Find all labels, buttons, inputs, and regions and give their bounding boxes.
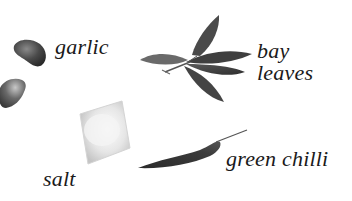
garlic-clove-icon-2 xyxy=(0,79,26,108)
salt-label: salt xyxy=(43,168,76,190)
ingredients-figure: garlic bay leaves salt green chilli xyxy=(0,0,352,201)
salt-cube-icon xyxy=(80,101,130,164)
bay-leaf-icon xyxy=(140,15,252,102)
garlic-clove-icon xyxy=(14,40,46,67)
green-chilli-label: green chilli xyxy=(226,148,328,170)
garlic-label: garlic xyxy=(55,36,109,58)
bay-leaves-label-line2: leaves xyxy=(257,62,313,84)
bay-leaves-label-line1: bay xyxy=(257,40,289,62)
